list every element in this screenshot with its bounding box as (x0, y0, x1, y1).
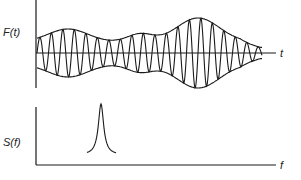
f-axis-label: f (280, 159, 284, 171)
s-f-axis-label: S(f) (3, 136, 21, 148)
upper-envelope (37, 18, 262, 47)
signal-spectrum-diagram: F(t) t S(f) f (0, 0, 301, 180)
t-axis-label: t (280, 47, 284, 59)
f-t-axis-label: F(t) (3, 26, 20, 38)
spectral-peak (87, 104, 116, 153)
